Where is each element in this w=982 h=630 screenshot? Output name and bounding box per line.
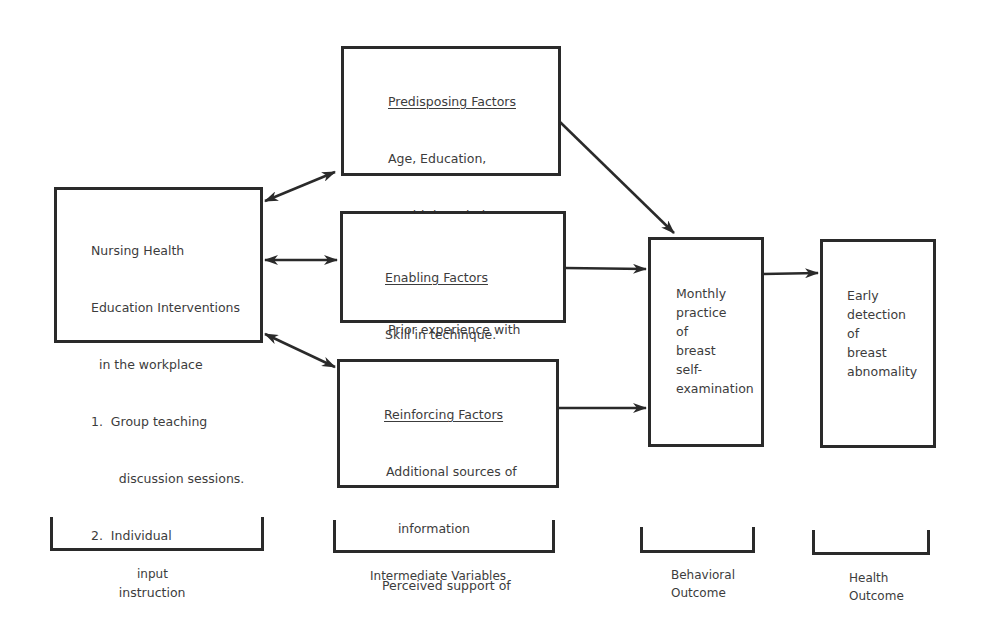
health-outcome-box: Early detection of breast abnomality	[820, 239, 936, 448]
enabling-factors-box: Enabling Factors Skill in techinque. Con…	[340, 211, 566, 323]
bracket-health-outcome	[812, 530, 930, 555]
health-line: detection	[847, 305, 917, 324]
bracket-intermediate-variables	[333, 520, 555, 553]
input-line: Nursing Health	[91, 241, 244, 260]
arrow-enabling-behavioral	[565, 268, 646, 269]
behavioral-box-text: Monthly practice of breast self- examina…	[676, 284, 754, 398]
label-input: input	[137, 565, 168, 583]
arrow-predisposing-behavioral	[560, 122, 674, 233]
input-line: instruction	[91, 583, 244, 602]
label-line: Health	[849, 569, 904, 587]
predisposing-title: Predisposing Factors	[388, 92, 544, 111]
label-line: Outcome	[671, 584, 735, 602]
enabling-line: Skill in techinque.	[385, 325, 552, 344]
behavioral-line: Monthly	[676, 284, 754, 303]
input-line: discussion sessions.	[91, 469, 244, 488]
input-line: 1. Group teaching	[91, 412, 244, 431]
behavioral-line: self-	[676, 360, 754, 379]
reinforcing-line: Additional sources of	[382, 462, 523, 481]
arrow-input-reinforcing	[265, 334, 335, 367]
input-line: Education Interventions	[91, 298, 244, 317]
arrow-input-predisposing	[265, 172, 335, 201]
reinforcing-title: Reinforcing Factors	[382, 405, 523, 424]
label-health-outcome: Health Outcome	[849, 569, 904, 605]
behavioral-line: practice	[676, 303, 754, 322]
label-line: Behavioral	[671, 566, 735, 584]
label-line: Outcome	[849, 587, 904, 605]
behavioral-line: examination	[676, 379, 754, 398]
behavioral-line: breast	[676, 341, 754, 360]
health-line: breast	[847, 343, 917, 362]
predisposing-line: Age, Education,	[388, 149, 544, 168]
behavioral-line: of	[676, 322, 754, 341]
enabling-title: Enabling Factors	[385, 268, 552, 287]
health-box-text: Early detection of breast abnomality	[847, 286, 917, 381]
predisposing-factors-box: Predisposing Factors Age, Education, Hea…	[341, 46, 561, 176]
health-line: abnomality	[847, 362, 917, 381]
reinforcing-factors-box: Reinforcing Factors Additional sources o…	[337, 359, 559, 488]
input-line: in the workplace	[91, 355, 244, 374]
input-interventions-box: Nursing Health Education Interventions i…	[54, 187, 263, 343]
label-behavioral-outcome: Behavioral Outcome	[671, 566, 735, 602]
health-line: Early	[847, 286, 917, 305]
reinforcing-box-text: Reinforcing Factors Additional sources o…	[382, 367, 523, 630]
arrow-behavioral-health	[763, 273, 818, 274]
bracket-input	[50, 517, 264, 551]
health-line: of	[847, 324, 917, 343]
label-line: input	[137, 565, 168, 583]
label-intermediate-variables: Intermediate Variables	[370, 567, 506, 585]
behavioral-outcome-box: Monthly practice of breast self- examina…	[648, 237, 764, 447]
label-line: Intermediate Variables	[370, 567, 506, 585]
bracket-behavioral-outcome	[640, 527, 755, 553]
